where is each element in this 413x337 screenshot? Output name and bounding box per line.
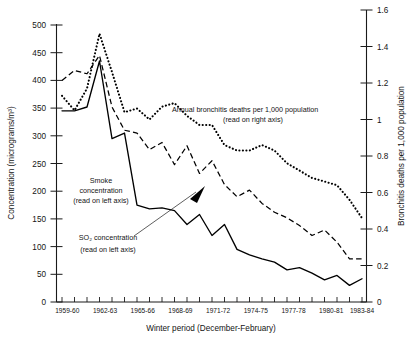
bronchitis-annotation-line1: Annual bronchitis deaths per 1,000 popul… xyxy=(172,105,318,114)
xtick-1959-60: 1959-60 xyxy=(55,307,80,314)
ytick-200: 200 xyxy=(32,187,46,196)
smoke-annotation-line2: concentration xyxy=(79,186,122,195)
smoke-annotation-line3: (read on left axis) xyxy=(73,196,129,205)
y2tick-1-2: 1.2 xyxy=(377,79,389,88)
right-axis-tick-labels: 0 0.2 0.4 0.6 0.8 1 1.2 1.4 1.6 xyxy=(377,6,389,307)
x-axis-tick-labels: 1959-60 1962-63 1965-66 1968-69 1971-72 … xyxy=(55,307,374,314)
series-smoke-concentration xyxy=(62,55,362,258)
bronchitis-annotation-line2: (read on right axis) xyxy=(223,115,283,124)
xtick-1968-69: 1968-69 xyxy=(168,307,193,314)
y2tick-0-8: 0.8 xyxy=(377,152,389,161)
chart-figure: 0 50 100 150 200 250 300 350 400 450 500… xyxy=(0,0,413,337)
ytick-150: 150 xyxy=(32,215,46,224)
y2tick-0-2: 0.2 xyxy=(377,262,389,271)
ytick-0: 0 xyxy=(41,298,46,307)
ytick-500: 500 xyxy=(32,21,46,30)
ytick-450: 450 xyxy=(32,49,46,58)
xtick-1983-84: 1983-84 xyxy=(350,307,375,314)
smoke-annotation-line1: Smoke xyxy=(90,176,112,185)
chart-svg: 0 50 100 150 200 250 300 350 400 450 500… xyxy=(0,0,413,337)
ytick-250: 250 xyxy=(32,160,46,169)
xtick-1980-81: 1980-81 xyxy=(319,307,344,314)
y2tick-1-4: 1.4 xyxy=(377,43,389,52)
ytick-350: 350 xyxy=(32,104,46,113)
ytick-300: 300 xyxy=(32,132,46,141)
so2-annotation-line1: SO₂ concentration xyxy=(79,233,137,242)
x-axis-title-text: Winter period (December-February) xyxy=(146,324,276,333)
ytick-400: 400 xyxy=(32,76,46,85)
xtick-1977-78: 1977-78 xyxy=(281,307,306,314)
right-axis-title-text: Bronchitis deaths per 1,000 population xyxy=(397,86,406,226)
smoke-annotation: Smoke concentration (read on left axis) xyxy=(73,176,129,205)
y2tick-0: 0 xyxy=(377,298,382,307)
so2-annotation-leader-line xyxy=(134,192,196,236)
y2tick-0-4: 0.4 xyxy=(377,225,389,234)
left-axis-title-text: Concentration (micrograms/m³) xyxy=(7,106,16,220)
right-axis-title: Bronchitis deaths per 1,000 population xyxy=(397,86,406,226)
so2-annotation-line2: (read on left axis) xyxy=(80,245,136,254)
y2tick-1: 1 xyxy=(377,116,382,125)
xtick-1971-72: 1971-72 xyxy=(206,307,231,314)
x-axis-ticks xyxy=(62,297,362,302)
ytick-100: 100 xyxy=(32,243,46,252)
xtick-1974-75: 1974-75 xyxy=(244,307,269,314)
cropped-header-text xyxy=(300,0,302,4)
left-axis-title: Concentration (micrograms/m³) xyxy=(7,106,16,220)
y2tick-1-6: 1.6 xyxy=(377,6,389,15)
x-axis-title: Winter period (December-February) xyxy=(146,324,276,333)
xtick-1962-63: 1962-63 xyxy=(93,307,118,314)
y2tick-0-6: 0.6 xyxy=(377,189,389,198)
left-axis-tick-labels: 0 50 100 150 200 250 300 350 400 450 500 xyxy=(32,21,46,307)
ytick-50: 50 xyxy=(37,270,47,279)
xtick-1965-66: 1965-66 xyxy=(131,307,156,314)
